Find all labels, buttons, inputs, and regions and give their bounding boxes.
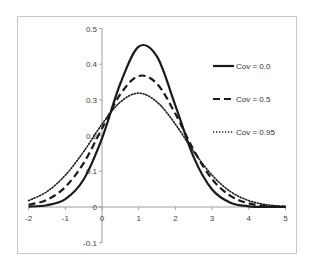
- x-tick-label: 3: [210, 214, 215, 223]
- line-chart: -2-1012345-0.100.10.20.30.40.5 Cov = 0.0…: [0, 0, 312, 272]
- x-tick-label: 1: [136, 214, 141, 223]
- legend-label: Cov = 0.0: [236, 62, 271, 71]
- x-tick-label: 2: [173, 214, 178, 223]
- y-tick-label: -0.1: [83, 239, 97, 248]
- x-tick-label: -2: [25, 214, 33, 223]
- y-tick-label: 0: [93, 203, 98, 212]
- legend-label: Cov = 0.95: [236, 128, 275, 137]
- legend-label: Cov = 0.5: [236, 95, 271, 104]
- y-tick-label: 0.4: [86, 60, 98, 69]
- series-line-dotted: [29, 93, 286, 206]
- legend: Cov = 0.0Cov = 0.5Cov = 0.95: [213, 62, 275, 137]
- x-tick-label: 5: [283, 214, 288, 223]
- x-tick-label: 4: [247, 214, 252, 223]
- x-tick-label: 0: [100, 214, 105, 223]
- y-tick-label: 0.3: [86, 96, 98, 105]
- y-tick-label: 0.5: [86, 25, 98, 34]
- x-tick-label: -1: [62, 214, 70, 223]
